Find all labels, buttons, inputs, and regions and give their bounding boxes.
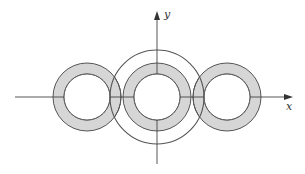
diagram-svg [0, 0, 305, 174]
y-axis-arrow-icon [154, 11, 160, 20]
center-ring-inner [134, 74, 180, 120]
left-ring-inner [64, 74, 110, 120]
y-axis-label: y [164, 8, 170, 21]
x-axis-label: x [286, 100, 292, 113]
diagram-canvas: y x [0, 0, 305, 174]
right-ring-inner [204, 74, 250, 120]
